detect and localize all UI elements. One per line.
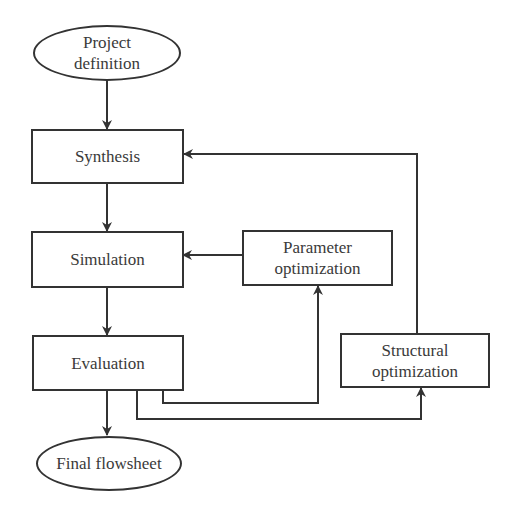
- parameter-optimization-label-2: optimization: [275, 258, 361, 279]
- project-definition-label-1: Project: [83, 32, 131, 53]
- synthesis-label: Synthesis: [75, 146, 140, 167]
- parameter-optimization-node: Parameter optimization: [242, 230, 393, 286]
- evaluation-node: Evaluation: [32, 335, 184, 391]
- synthesis-node: Synthesis: [31, 129, 184, 184]
- simulation-node: Simulation: [31, 231, 184, 288]
- final-flowsheet-label: Final flowsheet: [56, 453, 161, 474]
- final-flowsheet-node: Final flowsheet: [36, 436, 182, 491]
- arrow-evaluation-to-parameter: [163, 286, 318, 403]
- evaluation-label: Evaluation: [71, 353, 145, 374]
- structural-optimization-node: Structural optimization: [340, 333, 490, 388]
- structural-optimization-label-2: optimization: [372, 361, 458, 382]
- simulation-label: Simulation: [70, 249, 145, 270]
- parameter-optimization-label-1: Parameter: [283, 237, 352, 258]
- project-definition-label-2: definition: [74, 53, 140, 74]
- structural-optimization-label-1: Structural: [381, 340, 448, 361]
- project-definition-node: Project definition: [33, 25, 181, 81]
